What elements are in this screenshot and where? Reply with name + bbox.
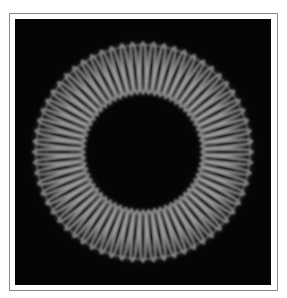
ring-image (15, 19, 271, 285)
radial-ring-pattern (15, 19, 271, 285)
